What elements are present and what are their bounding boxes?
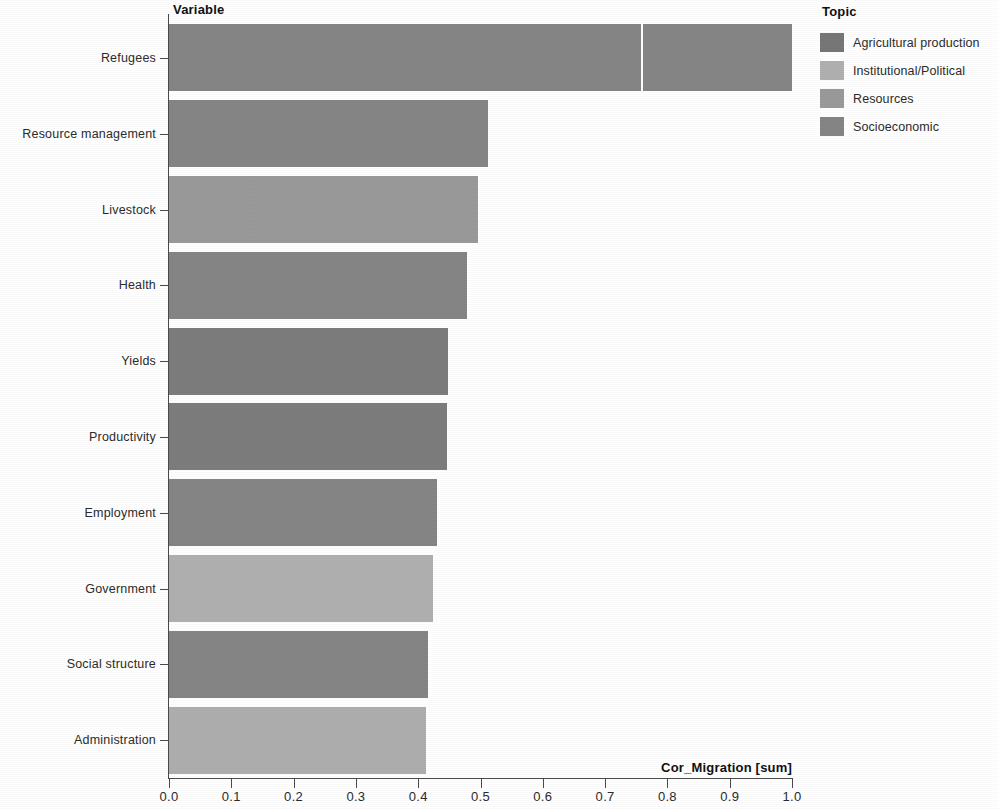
- x-tick-mark: [667, 779, 668, 788]
- y-tick-label: Productivity: [0, 430, 156, 444]
- y-tick-label: Government: [0, 582, 156, 596]
- y-tick-label: Employment: [0, 506, 156, 520]
- bar-refugees[interactable]: [169, 24, 792, 91]
- y-tick-mark: [160, 513, 169, 514]
- x-tick-label: 0.8: [658, 789, 677, 804]
- legend-item-label: Resources: [853, 92, 914, 106]
- x-tick-label: 0.7: [596, 789, 615, 804]
- bar-administration[interactable]: [169, 707, 426, 774]
- legend-item-label: Institutional/Political: [853, 64, 965, 78]
- bar-segment[interactable]: [169, 479, 437, 546]
- x-tick-mark: [231, 779, 232, 788]
- y-tick-label: Livestock: [0, 203, 156, 217]
- y-axis-title: Variable: [173, 2, 224, 17]
- bar-segment[interactable]: [169, 403, 447, 470]
- x-tick-label: 0.6: [533, 789, 552, 804]
- bar-segment[interactable]: [169, 24, 641, 91]
- y-tick-mark: [160, 361, 169, 362]
- y-tick-mark: [160, 210, 169, 211]
- legend-item[interactable]: Resources: [820, 89, 998, 108]
- bar-resource-management[interactable]: [169, 100, 488, 167]
- bar-health[interactable]: [169, 252, 467, 319]
- legend-swatch-icon: [820, 61, 844, 80]
- x-tick-mark: [481, 779, 482, 788]
- y-tick-mark: [160, 664, 169, 665]
- x-axis-title: Cor_Migration [sum]: [661, 760, 792, 775]
- x-tick-label: 0.1: [222, 789, 241, 804]
- x-tick-label: 0.5: [471, 789, 490, 804]
- x-tick-label: 0.0: [160, 789, 179, 804]
- bar-segment[interactable]: [169, 176, 478, 243]
- bar-segment[interactable]: [641, 24, 792, 91]
- legend-item-label: Agricultural production: [853, 36, 980, 50]
- bar-productivity[interactable]: [169, 403, 447, 470]
- bar-employment[interactable]: [169, 479, 437, 546]
- y-tick-mark: [160, 740, 169, 741]
- y-tick-label: Resource management: [0, 127, 156, 141]
- x-tick-mark: [356, 779, 357, 788]
- y-tick-label: Refugees: [0, 51, 156, 65]
- bar-segment[interactable]: [169, 555, 433, 622]
- x-tick-label: 0.3: [346, 789, 365, 804]
- bar-yields[interactable]: [169, 328, 448, 395]
- bar-segment[interactable]: [169, 100, 488, 167]
- legend-swatch-icon: [820, 89, 844, 108]
- y-tick-mark: [160, 589, 169, 590]
- x-tick-mark: [543, 779, 544, 788]
- x-tick-label: 0.4: [409, 789, 428, 804]
- legend: Topic Agricultural productionInstitution…: [820, 4, 998, 145]
- legend-swatch-icon: [820, 117, 844, 136]
- legend-item[interactable]: Agricultural production: [820, 33, 998, 52]
- x-tick-label: 0.2: [284, 789, 303, 804]
- bar-government[interactable]: [169, 555, 433, 622]
- bar-segment[interactable]: [169, 707, 426, 774]
- y-tick-mark: [160, 437, 169, 438]
- x-tick-mark: [169, 779, 170, 788]
- bar-segment[interactable]: [169, 252, 467, 319]
- y-tick-mark: [160, 285, 169, 286]
- y-tick-mark: [160, 134, 169, 135]
- x-tick-mark: [294, 779, 295, 788]
- legend-item-label: Socioeconomic: [853, 120, 939, 134]
- x-tick-mark: [418, 779, 419, 788]
- y-tick-label: Administration: [0, 733, 156, 747]
- bar-segment[interactable]: [169, 328, 448, 395]
- x-tick-mark: [730, 779, 731, 788]
- chart-page: Variable RefugeesResource managementLive…: [0, 0, 998, 809]
- legend-title: Topic: [822, 4, 998, 19]
- y-tick-label: Social structure: [0, 657, 156, 671]
- x-tick-mark: [792, 779, 793, 788]
- y-tick-mark: [160, 58, 169, 59]
- legend-swatch-icon: [820, 33, 844, 52]
- bar-social-structure[interactable]: [169, 631, 428, 698]
- x-tick-label: 0.9: [720, 789, 739, 804]
- y-tick-label: Yields: [0, 354, 156, 368]
- bar-livestock[interactable]: [169, 176, 478, 243]
- legend-items: Agricultural productionInstitutional/Pol…: [820, 33, 998, 136]
- legend-item[interactable]: Institutional/Political: [820, 61, 998, 80]
- legend-item[interactable]: Socioeconomic: [820, 117, 998, 136]
- bar-segment[interactable]: [169, 631, 428, 698]
- y-tick-label: Health: [0, 278, 156, 292]
- x-tick-label: 1.0: [783, 789, 802, 804]
- x-tick-mark: [605, 779, 606, 788]
